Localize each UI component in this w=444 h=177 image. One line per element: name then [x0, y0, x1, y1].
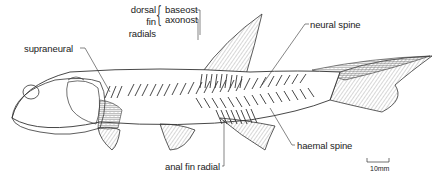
brace-dorsal-fin-radials: {: [156, 4, 162, 26]
label-radials: radials: [118, 29, 156, 39]
pelvic-fin: [160, 124, 195, 150]
label-fin: fin: [128, 17, 156, 27]
fish-skeleton-diagram: dorsal fin radials { baseost axonost neu…: [0, 0, 444, 177]
label-dorsal: dorsal: [128, 5, 156, 15]
label-neural-spine: neural spine: [310, 20, 361, 30]
scale-bar: [367, 158, 389, 162]
anal-fin: [220, 118, 275, 150]
label-axonost: axonost: [165, 15, 198, 25]
fish-illustration: [0, 0, 444, 177]
dorsal-fin: [200, 14, 262, 78]
scale-bar-label: 10mm: [370, 165, 389, 172]
body-outline: [12, 69, 340, 128]
label-haemal-spine: haemal spine: [297, 141, 352, 151]
label-supraneural: supraneural: [24, 44, 73, 54]
pectoral-fin: [98, 127, 120, 150]
label-anal-fin-radial: anal fin radial: [165, 162, 220, 172]
